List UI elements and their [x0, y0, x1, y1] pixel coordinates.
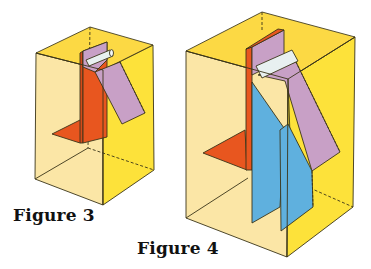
figure-3-caption: Figure 3 — [13, 205, 95, 225]
figure-4-caption: Figure 4 — [137, 238, 219, 258]
figure-3-drawing — [35, 27, 154, 205]
white-cylinder-end — [110, 50, 114, 57]
figure-4-drawing — [186, 12, 355, 257]
diagram-canvas — [0, 0, 371, 269]
red-vertical-plate — [246, 47, 252, 170]
